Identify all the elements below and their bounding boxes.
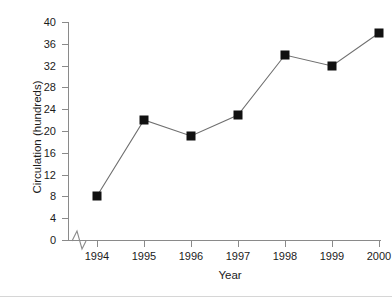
- data-point-1998: [281, 51, 290, 60]
- data-point-1996: [187, 132, 196, 141]
- data-point-2000: [375, 29, 384, 38]
- series-overlay: [0, 0, 392, 303]
- data-point-1999: [328, 62, 337, 71]
- data-point-1994: [93, 192, 102, 201]
- axis-break-zigzag: [72, 231, 86, 249]
- data-point-1995: [140, 116, 149, 125]
- data-point-1997: [234, 111, 243, 120]
- line-chart: 0 4 8 12 16 20 24 28 32 36 40 1994 1995 …: [0, 0, 392, 303]
- bottom-divider: [0, 296, 392, 297]
